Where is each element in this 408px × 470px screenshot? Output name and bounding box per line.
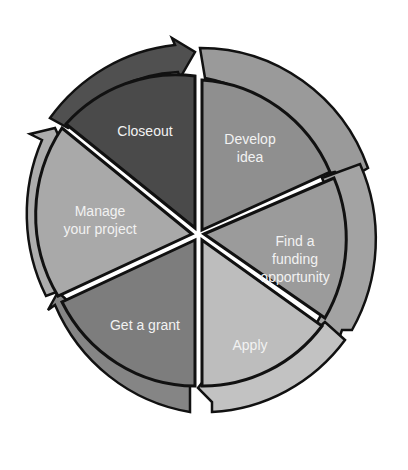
- develop-idea-label: Develop idea: [210, 130, 290, 166]
- get-grant-label: Get a grant: [95, 316, 195, 334]
- manage-project-label: Manage your project: [40, 202, 160, 238]
- grant-lifecycle-diagram: Closeout Develop idea Manage your projec…: [0, 0, 408, 470]
- apply-label: Apply: [220, 336, 280, 354]
- find-funding-label: Find a funding opportunity: [240, 232, 350, 286]
- closeout-label: Closeout: [100, 122, 190, 140]
